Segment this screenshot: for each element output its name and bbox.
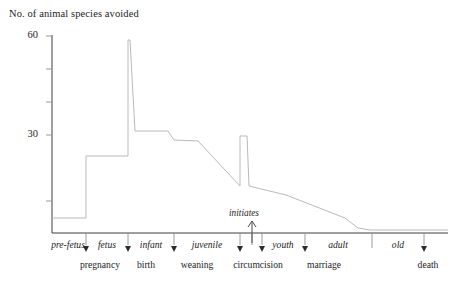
stage-label-old: old [392,239,404,250]
stage-label-adult: adult [328,239,348,250]
arrowhead-marriage [302,246,308,252]
y-axis-tick-label-30: 30 [12,128,38,139]
arrowhead-circumcision-b [259,246,265,252]
chart-figure: No. of animal species avoided 60 30 [0,0,457,287]
species-avoided-curve [52,40,448,230]
event-label-weaning: weaning [181,259,214,270]
event-label-birth: birth [137,259,155,270]
arrowhead-death [421,246,427,252]
y-axis-title: No. of animal species avoided [9,8,139,19]
annotation-initiates: initiates [229,208,259,218]
stage-label-infant: infant [140,239,162,250]
y-axis-tick-label-60: 60 [12,29,38,40]
event-label-circumcision: circumcision [233,259,283,270]
stage-label-pre-fetus: pre-fetus [51,239,85,250]
event-label-marriage: marriage [307,259,341,270]
event-label-pregnancy: pregnancy [80,259,120,270]
stage-label-youth: youth [272,239,293,250]
arrowhead-weaning [171,246,177,252]
stage-label-fetus: fetus [98,239,116,250]
arrowhead-birth [125,246,131,252]
stage-label-juvenile: juvenile [192,239,222,250]
arrowhead-circumcision-a [237,246,243,252]
event-label-death: death [418,259,439,270]
